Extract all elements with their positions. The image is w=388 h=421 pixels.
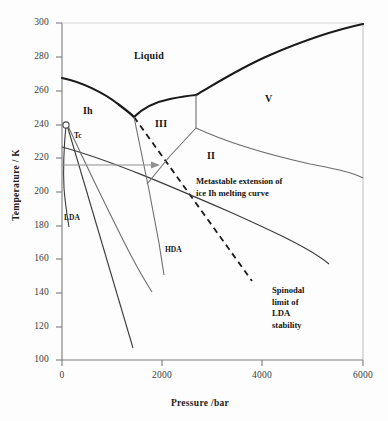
- y-tick-140: 140: [24, 287, 49, 297]
- y-tick-260: 260: [24, 85, 49, 95]
- y-tick-220: 220: [24, 152, 49, 162]
- curve-ice-Ih-melting: [62, 78, 134, 117]
- y-tick-200: 200: [24, 186, 49, 196]
- curve-ice-III-melting: [134, 95, 196, 117]
- x-tick-6000: 6000: [346, 370, 380, 380]
- label-LDA: LDA: [64, 213, 80, 222]
- x-tick-2000: 2000: [145, 370, 179, 380]
- y-tick-300: 300: [24, 17, 49, 27]
- y-tick-120: 120: [24, 321, 49, 331]
- curve-metastable-extension: [134, 117, 252, 281]
- y-axis-ticks: [56, 23, 62, 360]
- curve-HDA-line: [68, 126, 152, 292]
- label-Tc: Tc: [74, 131, 82, 140]
- y-tick-160: 160: [24, 253, 49, 263]
- x-axis-title: Pressure /bar: [120, 398, 280, 408]
- label-ice-II: II: [207, 150, 215, 161]
- boundary-III-II: [147, 128, 196, 184]
- phase-diagram-figure: 300 280 260 240 220 200 180 160 140 120 …: [0, 0, 388, 421]
- x-tick-0: 0: [48, 370, 76, 380]
- y-tick-280: 280: [24, 51, 49, 61]
- phase-diagram-plot: [0, 0, 388, 421]
- note-metastable-extension: Metastable extension of ice Ih melting c…: [196, 176, 282, 199]
- label-ice-III: III: [155, 118, 167, 129]
- label-liquid: Liquid: [134, 50, 164, 61]
- Tc-open-circle-marker: [63, 122, 69, 128]
- label-ice-Ih: Ih: [83, 105, 93, 116]
- note-spinodal-limit: Spinodal limit of LDA stability: [272, 285, 305, 331]
- label-HDA: HDA: [165, 245, 182, 254]
- y-axis-title: Temperature / K: [11, 141, 21, 229]
- y-tick-240: 240: [24, 119, 49, 129]
- boundary-II-V: [196, 128, 363, 178]
- label-ice-V: V: [265, 93, 272, 104]
- curve-LDA-left-boundary: [64, 125, 69, 227]
- x-axis-ticks: [62, 360, 363, 366]
- boundary-Ih-III: [134, 117, 164, 275]
- x-tick-4000: 4000: [245, 370, 279, 380]
- y-tick-100: 100: [24, 354, 49, 364]
- y-tick-180: 180: [24, 220, 49, 230]
- curve-ice-V-melting: [196, 24, 363, 95]
